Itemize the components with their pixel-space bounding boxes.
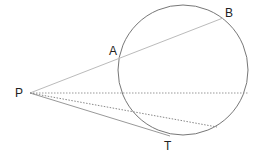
label-b: B <box>225 6 233 20</box>
diagram-canvas: P A B T <box>0 0 264 159</box>
label-p: P <box>15 86 23 100</box>
label-t: T <box>164 139 172 153</box>
label-a: A <box>109 44 117 58</box>
circle <box>118 5 248 135</box>
secant-line-pab <box>30 18 223 93</box>
